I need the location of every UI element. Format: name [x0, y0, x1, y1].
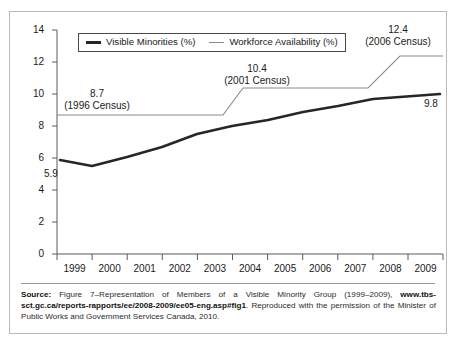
- x-tick-label-2009: 2009: [409, 263, 443, 274]
- annotation-sub-2006-census: (2006 Census): [355, 36, 441, 48]
- chart-plot-area: 14 12 10 8 6 4 2 0 1999 2000 2001 2002 2…: [0, 0, 457, 290]
- figure-container: 14 12 10 8 6 4 2 0 1999 2000 2001 2002 2…: [0, 0, 457, 346]
- legend-label-workforce-availability: Workforce Availability (%): [229, 37, 337, 47]
- y-tick-label-8: 8: [22, 120, 44, 131]
- source-text-lead: Figure 7–Representation of Members of a …: [51, 290, 400, 299]
- y-axis-ticks: [52, 30, 57, 254]
- x-tick-label-2003: 2003: [198, 263, 232, 274]
- legend-entry-workforce-availability: Workforce Availability (%): [209, 37, 337, 47]
- annotation-2001-census: 10.4 (2001 Census): [214, 63, 300, 86]
- x-tick-label-1999: 1999: [58, 263, 92, 274]
- x-tick-label-2005: 2005: [268, 263, 302, 274]
- y-tick-label-4: 4: [22, 184, 44, 195]
- y-tick-label-12: 12: [22, 56, 44, 67]
- annotation-2006-census: 12.4 (2006 Census): [355, 24, 441, 47]
- annotation-value-12-4: 12.4: [355, 24, 441, 36]
- x-tick-label-2004: 2004: [233, 263, 267, 274]
- annotation-sub-2001-census: (2001 Census): [214, 75, 300, 87]
- x-tick-label-2007: 2007: [338, 263, 372, 274]
- legend-entry-visible-minorities: Visible Minorities (%): [86, 37, 195, 47]
- legend-label-visible-minorities: Visible Minorities (%): [106, 37, 195, 47]
- x-tick-label-2002: 2002: [163, 263, 197, 274]
- x-tick-label-2000: 2000: [93, 263, 127, 274]
- y-tick-label-2: 2: [22, 216, 44, 227]
- source-note: Source: Figure 7–Representation of Membe…: [21, 289, 436, 323]
- x-tick-label-2006: 2006: [303, 263, 337, 274]
- legend-line-swatch-icon: [86, 41, 101, 44]
- y-tick-label-0: 0: [22, 248, 44, 259]
- x-axis-ticks: [57, 254, 443, 260]
- annotation-end-value: 9.8: [424, 98, 438, 109]
- source-label: Source:: [21, 290, 51, 299]
- x-tick-label-2008: 2008: [373, 263, 407, 274]
- legend-line-swatch-icon: [209, 42, 224, 43]
- x-tick-label-2001: 2001: [128, 263, 162, 274]
- annotation-start-value: 5.9: [44, 168, 58, 179]
- annotation-sub-1996-census: (1996 Census): [54, 100, 140, 112]
- annotation-1996-census: 8.7 (1996 Census): [54, 88, 140, 111]
- y-tick-label-10: 10: [22, 88, 44, 99]
- y-tick-label-6: 6: [22, 152, 44, 163]
- source-divider: [21, 283, 435, 284]
- annotation-value-8-7: 8.7: [54, 88, 140, 100]
- y-tick-label-14: 14: [22, 24, 44, 35]
- chart-legend: Visible Minorities (%) Workforce Availab…: [78, 33, 346, 52]
- annotation-value-10-4: 10.4: [214, 63, 300, 75]
